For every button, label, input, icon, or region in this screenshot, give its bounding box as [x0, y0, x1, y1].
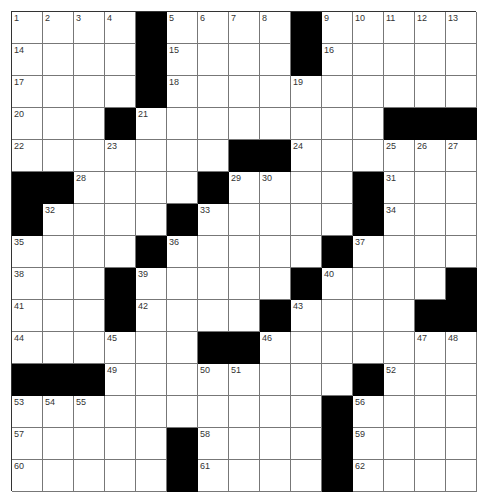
answer-square[interactable] [74, 76, 105, 108]
answer-square[interactable] [446, 172, 477, 204]
answer-square[interactable] [415, 428, 446, 460]
answer-square[interactable]: 44 [12, 332, 43, 364]
answer-square[interactable] [167, 364, 198, 396]
answer-square[interactable] [353, 44, 384, 76]
answer-square[interactable]: 8 [260, 12, 291, 44]
answer-square[interactable] [229, 204, 260, 236]
answer-square[interactable] [291, 460, 322, 492]
answer-square[interactable]: 59 [353, 428, 384, 460]
answer-square[interactable] [43, 268, 74, 300]
answer-square[interactable]: 34 [384, 204, 415, 236]
answer-square[interactable]: 55 [74, 396, 105, 428]
answer-square[interactable] [353, 76, 384, 108]
answer-square[interactable] [74, 204, 105, 236]
answer-square[interactable] [229, 428, 260, 460]
answer-square[interactable] [167, 172, 198, 204]
answer-square[interactable]: 16 [322, 44, 353, 76]
answer-square[interactable] [167, 396, 198, 428]
answer-square[interactable] [198, 108, 229, 140]
answer-square[interactable] [322, 172, 353, 204]
answer-square[interactable] [229, 460, 260, 492]
answer-square[interactable] [446, 204, 477, 236]
answer-square[interactable] [384, 268, 415, 300]
answer-square[interactable] [229, 268, 260, 300]
answer-square[interactable] [43, 300, 74, 332]
answer-square[interactable] [384, 236, 415, 268]
answer-square[interactable] [167, 268, 198, 300]
answer-square[interactable]: 33 [198, 204, 229, 236]
answer-square[interactable] [229, 396, 260, 428]
answer-square[interactable]: 46 [260, 332, 291, 364]
answer-square[interactable] [322, 140, 353, 172]
answer-square[interactable]: 60 [12, 460, 43, 492]
answer-square[interactable] [43, 140, 74, 172]
answer-square[interactable] [167, 108, 198, 140]
answer-square[interactable] [136, 396, 167, 428]
answer-square[interactable] [260, 44, 291, 76]
answer-square[interactable]: 47 [415, 332, 446, 364]
answer-square[interactable] [384, 396, 415, 428]
answer-square[interactable] [415, 364, 446, 396]
answer-square[interactable] [74, 460, 105, 492]
answer-square[interactable]: 14 [12, 44, 43, 76]
answer-square[interactable] [384, 76, 415, 108]
answer-square[interactable] [353, 332, 384, 364]
answer-square[interactable] [74, 140, 105, 172]
answer-square[interactable] [136, 460, 167, 492]
answer-square[interactable] [105, 236, 136, 268]
answer-square[interactable] [415, 76, 446, 108]
answer-square[interactable] [446, 396, 477, 428]
answer-square[interactable] [74, 44, 105, 76]
answer-square[interactable] [136, 332, 167, 364]
answer-square[interactable] [384, 460, 415, 492]
answer-square[interactable] [43, 332, 74, 364]
answer-square[interactable] [260, 108, 291, 140]
answer-square[interactable]: 39 [136, 268, 167, 300]
answer-square[interactable] [291, 332, 322, 364]
answer-square[interactable] [384, 44, 415, 76]
answer-square[interactable] [105, 396, 136, 428]
answer-square[interactable] [43, 236, 74, 268]
answer-square[interactable] [74, 300, 105, 332]
answer-square[interactable]: 53 [12, 396, 43, 428]
answer-square[interactable] [105, 172, 136, 204]
answer-square[interactable]: 35 [12, 236, 43, 268]
answer-square[interactable] [198, 76, 229, 108]
answer-square[interactable] [198, 396, 229, 428]
answer-square[interactable]: 19 [291, 76, 322, 108]
answer-square[interactable]: 23 [105, 140, 136, 172]
answer-square[interactable]: 17 [12, 76, 43, 108]
answer-square[interactable]: 54 [43, 396, 74, 428]
answer-square[interactable]: 49 [105, 364, 136, 396]
answer-square[interactable] [105, 204, 136, 236]
answer-square[interactable] [322, 76, 353, 108]
answer-square[interactable]: 37 [353, 236, 384, 268]
answer-square[interactable]: 13 [446, 12, 477, 44]
answer-square[interactable]: 18 [167, 76, 198, 108]
answer-square[interactable]: 57 [12, 428, 43, 460]
answer-square[interactable] [260, 460, 291, 492]
answer-square[interactable] [446, 236, 477, 268]
answer-square[interactable]: 30 [260, 172, 291, 204]
answer-square[interactable] [415, 396, 446, 428]
answer-square[interactable]: 56 [353, 396, 384, 428]
answer-square[interactable]: 26 [415, 140, 446, 172]
answer-square[interactable] [43, 460, 74, 492]
answer-square[interactable]: 41 [12, 300, 43, 332]
answer-square[interactable] [384, 428, 415, 460]
answer-square[interactable] [415, 460, 446, 492]
answer-square[interactable] [229, 236, 260, 268]
answer-square[interactable]: 5 [167, 12, 198, 44]
answer-square[interactable]: 11 [384, 12, 415, 44]
answer-square[interactable]: 4 [105, 12, 136, 44]
answer-square[interactable] [74, 332, 105, 364]
answer-square[interactable]: 43 [291, 300, 322, 332]
answer-square[interactable] [415, 236, 446, 268]
answer-square[interactable]: 61 [198, 460, 229, 492]
answer-square[interactable] [167, 140, 198, 172]
answer-square[interactable] [105, 44, 136, 76]
answer-square[interactable] [167, 300, 198, 332]
answer-square[interactable]: 29 [229, 172, 260, 204]
answer-square[interactable]: 62 [353, 460, 384, 492]
answer-square[interactable] [353, 300, 384, 332]
